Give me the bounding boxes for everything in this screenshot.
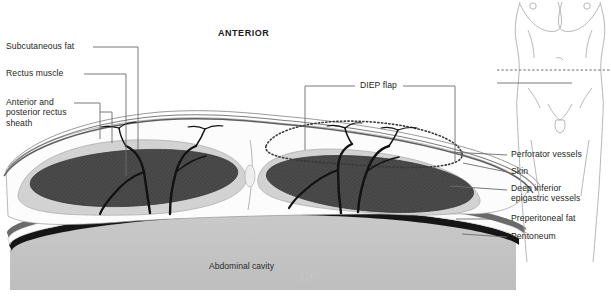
label-skin: Skin	[511, 166, 528, 176]
label-rectus-muscle: Rectus muscle	[6, 68, 63, 78]
label-peritoneum: Peritoneum	[511, 231, 556, 241]
label-perforator-vessels: Perforator vessels	[511, 149, 582, 159]
label-deep-inferior-epigastric-vessels: Deep inferior epigastric vessels	[511, 183, 580, 204]
label-preperitoneal-fat: Preperitoneal fat	[511, 213, 576, 223]
label-abdominal-cavity: Abdominal cavity	[209, 261, 274, 271]
page-title: ANTERIOR	[218, 28, 269, 38]
label-subcutaneous-fat: Subcutaneous fat	[6, 41, 74, 51]
figure-canvas: ANTERIOR Subcutaneous fat Rectus muscle …	[0, 0, 611, 301]
label-diep-flap: DIEP flap	[360, 80, 397, 90]
label-rectus-sheath: Anterior and posterior rectus sheath	[6, 97, 67, 128]
artist-signature: Cr.	[299, 268, 318, 284]
